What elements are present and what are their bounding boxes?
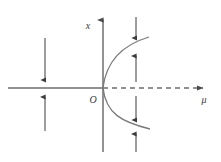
vertical-axis-label: x — [85, 20, 91, 31]
upper-parabola-branch — [103, 37, 149, 88]
bifurcation-diagram-figure: x μ O — [0, 0, 221, 162]
horizontal-axis-label: μ — [200, 94, 206, 105]
lower-parabola-branch — [103, 88, 150, 129]
diagram-canvas: x μ O — [0, 0, 221, 162]
origin-label: O — [89, 94, 96, 105]
